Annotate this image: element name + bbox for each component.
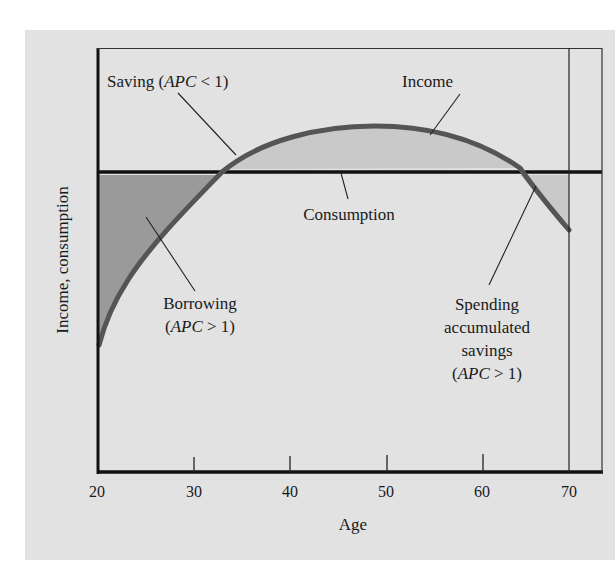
spending-label-line2: accumulated bbox=[444, 318, 530, 337]
tick-label-70: 70 bbox=[561, 483, 577, 500]
life-cycle-chart: Saving (APC < 1) Income Consumption Borr… bbox=[0, 0, 615, 572]
tick-label-60: 60 bbox=[474, 483, 490, 500]
x-tick-labels: 20 30 40 50 60 70 bbox=[89, 483, 577, 500]
income-leader bbox=[430, 94, 460, 135]
tick-label-30: 30 bbox=[186, 483, 202, 500]
spending-leader bbox=[489, 186, 536, 285]
x-axis-title: Age bbox=[339, 515, 367, 534]
spending-label-line3: savings bbox=[462, 341, 513, 360]
spending-label-line1: Spending bbox=[455, 295, 520, 314]
tick-label-20: 20 bbox=[89, 483, 105, 500]
x-ticks bbox=[194, 454, 483, 472]
borrowing-apc-label: (APC > 1) bbox=[165, 317, 235, 336]
income-label: Income bbox=[402, 72, 453, 91]
y-axis-title: Income, consumption bbox=[53, 186, 72, 334]
tick-label-40: 40 bbox=[282, 483, 298, 500]
saving-leader bbox=[178, 93, 236, 155]
spending-apc-label: (APC > 1) bbox=[452, 364, 522, 383]
borrowing-label: Borrowing bbox=[163, 294, 237, 313]
tick-label-50: 50 bbox=[378, 483, 394, 500]
consumption-label: Consumption bbox=[303, 205, 395, 224]
consumption-leader bbox=[341, 173, 348, 199]
saving-label: Saving (APC < 1) bbox=[107, 72, 229, 91]
